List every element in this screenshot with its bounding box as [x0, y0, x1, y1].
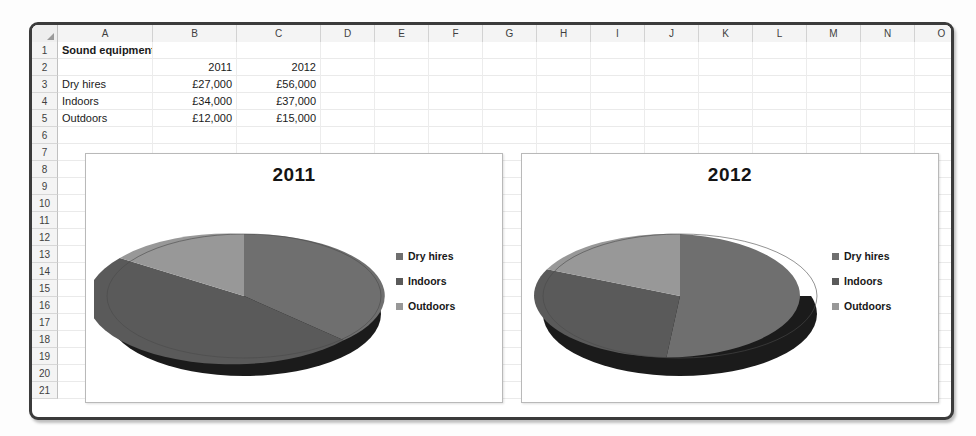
row-header-1[interactable]: 1 [32, 42, 58, 59]
cell-d5[interactable] [321, 110, 375, 127]
column-header-h[interactable]: H [537, 25, 591, 42]
cell-i5[interactable] [591, 110, 645, 127]
cell-c2[interactable]: 2012 [237, 59, 321, 76]
row-header-15[interactable]: 15 [32, 280, 58, 297]
cell-d2[interactable] [321, 59, 375, 76]
cell-e1[interactable] [375, 42, 429, 59]
cell-i2[interactable] [591, 59, 645, 76]
cell-o5[interactable] [915, 110, 954, 127]
cell-l3[interactable] [753, 76, 807, 93]
cell-o4[interactable] [915, 93, 954, 110]
row-header-5[interactable]: 5 [32, 110, 58, 127]
cell-n3[interactable] [861, 76, 915, 93]
cell-g2[interactable] [483, 59, 537, 76]
cell-b2[interactable]: 2011 [153, 59, 237, 76]
column-header-l[interactable]: L [753, 25, 807, 42]
cell-o1[interactable] [915, 42, 954, 59]
cell-m6[interactable] [807, 127, 861, 144]
row-header-7[interactable]: 7 [32, 144, 58, 161]
legend-item-dry-hires-2012[interactable]: Dry hires [832, 250, 924, 262]
cell-b4[interactable]: £34,000 [153, 93, 237, 110]
cell-o3[interactable] [915, 76, 954, 93]
cell-d6[interactable] [321, 127, 375, 144]
cell-a2[interactable] [58, 59, 153, 76]
cell-c3[interactable]: £56,000 [237, 76, 321, 93]
column-header-o[interactable]: O [915, 25, 954, 42]
select-all-corner[interactable] [32, 25, 58, 42]
cell-i4[interactable] [591, 93, 645, 110]
legend-item-outdoors-2011[interactable]: Outdoors [396, 300, 488, 312]
row-header-11[interactable]: 11 [32, 212, 58, 229]
cell-a1[interactable]: Sound equipment hires [58, 42, 153, 59]
column-header-e[interactable]: E [375, 25, 429, 42]
cell-f6[interactable] [429, 127, 483, 144]
column-header-c[interactable]: C [237, 25, 321, 42]
cell-b5[interactable]: £12,000 [153, 110, 237, 127]
column-header-m[interactable]: M [807, 25, 861, 42]
column-header-b[interactable]: B [153, 25, 237, 42]
cell-b3[interactable]: £27,000 [153, 76, 237, 93]
cell-f2[interactable] [429, 59, 483, 76]
cell-d4[interactable] [321, 93, 375, 110]
cell-m4[interactable] [807, 93, 861, 110]
cell-i6[interactable] [591, 127, 645, 144]
chart-2012[interactable]: 2012 [521, 153, 939, 403]
row-header-20[interactable]: 20 [32, 365, 58, 382]
cell-f5[interactable] [429, 110, 483, 127]
cell-j6[interactable] [645, 127, 699, 144]
row-header-21[interactable]: 21 [32, 382, 58, 399]
cell-o6[interactable] [915, 127, 954, 144]
cell-a3[interactable]: Dry hires [58, 76, 153, 93]
cell-g1[interactable] [483, 42, 537, 59]
cell-o2[interactable] [915, 59, 954, 76]
cell-h2[interactable] [537, 59, 591, 76]
cell-k4[interactable] [699, 93, 753, 110]
cell-j3[interactable] [645, 76, 699, 93]
chart-2011[interactable]: 2011 [85, 153, 503, 403]
row-header-10[interactable]: 10 [32, 195, 58, 212]
cell-b1[interactable] [153, 42, 237, 59]
column-header-d[interactable]: D [321, 25, 375, 42]
cell-e3[interactable] [375, 76, 429, 93]
cell-a4[interactable]: Indoors [58, 93, 153, 110]
cell-h3[interactable] [537, 76, 591, 93]
cell-a6[interactable] [58, 127, 153, 144]
cell-e4[interactable] [375, 93, 429, 110]
row-header-12[interactable]: 12 [32, 229, 58, 246]
legend-item-indoors-2011[interactable]: Indoors [396, 275, 488, 287]
cell-j1[interactable] [645, 42, 699, 59]
cell-j2[interactable] [645, 59, 699, 76]
cell-c6[interactable] [237, 127, 321, 144]
column-header-g[interactable]: G [483, 25, 537, 42]
cell-e5[interactable] [375, 110, 429, 127]
cell-f3[interactable] [429, 76, 483, 93]
cell-n1[interactable] [861, 42, 915, 59]
column-header-k[interactable]: K [699, 25, 753, 42]
cell-g3[interactable] [483, 76, 537, 93]
cell-n4[interactable] [861, 93, 915, 110]
cell-n2[interactable] [861, 59, 915, 76]
cell-i1[interactable] [591, 42, 645, 59]
cell-e6[interactable] [375, 127, 429, 144]
row-header-2[interactable]: 2 [32, 59, 58, 76]
cell-j4[interactable] [645, 93, 699, 110]
cell-g4[interactable] [483, 93, 537, 110]
row-header-18[interactable]: 18 [32, 331, 58, 348]
cell-a5[interactable]: Outdoors [58, 110, 153, 127]
cell-b6[interactable] [153, 127, 237, 144]
cell-d1[interactable] [321, 42, 375, 59]
cell-l4[interactable] [753, 93, 807, 110]
legend-item-dry-hires-2011[interactable]: Dry hires [396, 250, 488, 262]
row-header-6[interactable]: 6 [32, 127, 58, 144]
row-header-16[interactable]: 16 [32, 297, 58, 314]
cell-g5[interactable] [483, 110, 537, 127]
cell-m2[interactable] [807, 59, 861, 76]
column-header-j[interactable]: J [645, 25, 699, 42]
cell-k2[interactable] [699, 59, 753, 76]
row-header-17[interactable]: 17 [32, 314, 58, 331]
cell-h1[interactable] [537, 42, 591, 59]
cell-m5[interactable] [807, 110, 861, 127]
cell-m1[interactable] [807, 42, 861, 59]
row-header-3[interactable]: 3 [32, 76, 58, 93]
cell-k3[interactable] [699, 76, 753, 93]
